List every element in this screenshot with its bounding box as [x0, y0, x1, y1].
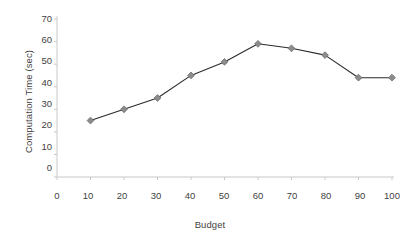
- plot-area: [0, 0, 420, 240]
- data-point: [288, 45, 295, 52]
- data-point: [221, 58, 228, 65]
- data-point: [255, 40, 262, 47]
- data-point: [121, 106, 128, 113]
- data-point: [154, 95, 161, 102]
- axis-lines: [57, 16, 394, 177]
- data-point: [188, 72, 195, 79]
- data-point: [87, 117, 94, 124]
- line-chart: Computation Time (sec) Budget 70 60 50 4…: [0, 0, 420, 240]
- axis-ticks: [54, 19, 392, 180]
- series-line: [91, 44, 393, 121]
- data-point: [389, 74, 396, 81]
- data-point: [322, 52, 329, 59]
- data-point: [355, 74, 362, 81]
